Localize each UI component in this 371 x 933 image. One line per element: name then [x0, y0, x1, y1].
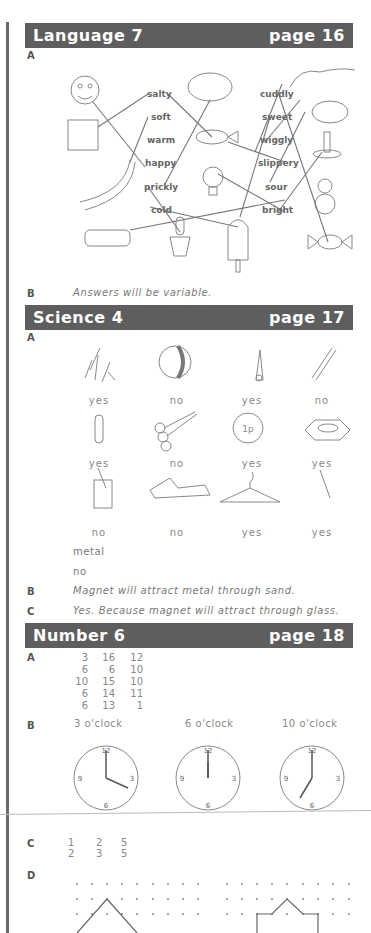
word-warm: warm — [147, 135, 175, 145]
answer-spoons: no — [152, 458, 202, 469]
section-header-language: Language 7 page 16 — [25, 23, 353, 48]
c-cell: 5 — [121, 848, 141, 859]
svg-text:3: 3 — [232, 775, 236, 783]
c-cell: 5 — [121, 837, 141, 848]
svg-text:6: 6 — [206, 802, 211, 810]
dot-grid-shapes — [70, 878, 370, 933]
question-label: B — [27, 720, 35, 731]
section-title: Number 6 — [33, 626, 125, 645]
section-title: Science 4 — [33, 308, 123, 327]
clock-label: 10 o'clock — [282, 718, 337, 729]
answer-pencil: no — [297, 395, 347, 406]
c-cell: 2 — [96, 837, 116, 848]
science-objects: 1p — [60, 340, 371, 530]
svg-text:6: 6 — [104, 802, 109, 810]
question-label: D — [27, 870, 35, 881]
answer-coin: yes — [227, 458, 277, 469]
a-cell: 11 — [123, 688, 143, 699]
a-cell: 1 — [123, 700, 143, 711]
a-cell: 13 — [95, 700, 115, 711]
answer-ball: no — [152, 395, 202, 406]
svg-text:12: 12 — [308, 747, 317, 755]
answer-nut: yes — [297, 458, 347, 469]
margin-rule — [6, 22, 9, 933]
a-cell: 6 — [68, 700, 88, 711]
a-cell: 12 — [123, 652, 143, 663]
page-ref: page 16 — [269, 26, 345, 45]
word-salty: salty — [147, 89, 172, 99]
svg-text:9: 9 — [78, 775, 82, 783]
c-cell: 1 — [68, 837, 88, 848]
answer-text: Yes. Because magnet will attract through… — [73, 605, 339, 616]
word-soft: soft — [151, 112, 171, 122]
a-cell: 10 — [68, 676, 88, 687]
word-sweet: sweet — [262, 112, 292, 122]
answer-safety-pin: yes — [227, 395, 277, 406]
clock-label: 3 o'clock — [74, 718, 123, 729]
question-label: C — [27, 606, 34, 617]
section-title: Language 7 — [33, 26, 143, 45]
extra-text: no — [73, 566, 87, 577]
a-cell: 6 — [68, 664, 88, 675]
svg-text:9: 9 — [284, 775, 288, 783]
question-label: B — [27, 288, 35, 299]
c-cell: 3 — [96, 848, 116, 859]
page-ref: page 17 — [269, 308, 345, 327]
svg-text:12: 12 — [204, 747, 213, 755]
a-cell: 3 — [68, 652, 88, 663]
answer-text: Answers will be variable. — [73, 287, 212, 298]
section-header-science: Science 4 page 17 — [25, 305, 353, 330]
question-label: C — [27, 838, 34, 849]
question-label: B — [27, 586, 35, 597]
svg-text:3: 3 — [130, 775, 134, 783]
word-slippery: slippery — [258, 158, 299, 168]
answer-text: Magnet will attract metal through sand. — [73, 585, 295, 596]
answer-pins: yes — [74, 395, 124, 406]
answer-needle: yes — [297, 527, 347, 538]
svg-text:12: 12 — [102, 747, 111, 755]
word-happy: happy — [145, 158, 176, 168]
page-ref: page 18 — [269, 626, 345, 645]
word-prickly: prickly — [144, 182, 178, 192]
answer-glass: no — [74, 527, 124, 538]
clock-label: 6 o'clock — [185, 718, 234, 729]
clocks: 12369 12369 12369 — [60, 740, 371, 820]
matching-diagram — [60, 62, 360, 277]
answer-book: no — [152, 527, 202, 538]
a-cell: 10 — [123, 664, 143, 675]
word-bright: bright — [262, 205, 293, 215]
word-wiggly: wiggly — [260, 135, 293, 145]
svg-text:6: 6 — [310, 802, 315, 810]
a-cell: 6 — [68, 688, 88, 699]
a-cell: 10 — [123, 676, 143, 687]
word-cuddly: cuddly — [260, 89, 294, 99]
answer-paperclip: yes — [74, 458, 124, 469]
a-cell: 15 — [95, 676, 115, 687]
extra-text: metal — [73, 546, 105, 557]
a-cell: 16 — [95, 652, 115, 663]
section-header-number: Number 6 page 18 — [25, 623, 353, 648]
question-label: A — [27, 50, 35, 61]
a-cell: 6 — [95, 664, 115, 675]
question-label: A — [27, 652, 35, 663]
svg-text:3: 3 — [336, 775, 340, 783]
answer-hanger: yes — [227, 527, 277, 538]
coin-text: 1p — [242, 424, 254, 434]
svg-text:9: 9 — [180, 775, 184, 783]
a-cell: 14 — [95, 688, 115, 699]
word-cold: cold — [151, 205, 172, 215]
word-sour: sour — [265, 182, 287, 192]
c-cell: 2 — [68, 848, 88, 859]
question-label: A — [27, 332, 35, 343]
